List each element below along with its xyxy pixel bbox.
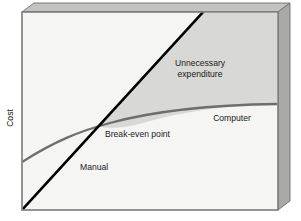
- computer-series-label: Computer: [213, 113, 251, 123]
- box-right-bevel: [278, 3, 290, 210]
- break-even-chart-figure: Cost Unnecessary expenditure Computer Br…: [0, 0, 301, 221]
- y-axis-label: Cost: [5, 109, 15, 127]
- break-even-point-label: Break-even point: [105, 129, 171, 139]
- box-top-bevel: [22, 3, 290, 12]
- unnecessary-expenditure-label-line1: Unnecessary: [175, 58, 226, 68]
- break-even-chart-svg: Cost Unnecessary expenditure Computer Br…: [0, 0, 301, 221]
- unnecessary-expenditure-label-line2: expenditure: [178, 69, 223, 79]
- manual-series-label: Manual: [80, 162, 108, 172]
